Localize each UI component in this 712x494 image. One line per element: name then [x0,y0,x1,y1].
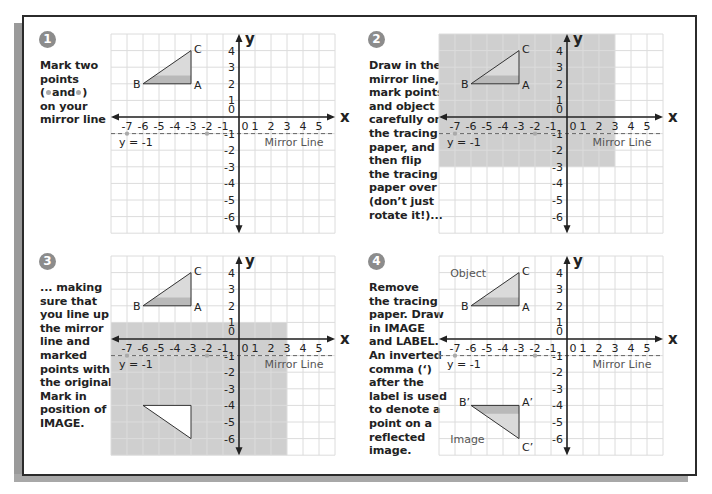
y-tick-label: -2 [552,144,563,157]
x-tick-label: -7 [122,342,133,355]
x-tick-label: 0 [242,120,249,133]
x-tick-label: 4 [628,342,635,355]
x-tick-label: 2 [596,342,603,355]
x-axis-label: x [340,330,350,348]
x-axis-arrow-right-icon [327,336,335,343]
x-tick-label: -2 [530,120,541,133]
vertex-label-c: C [522,43,530,56]
y-tick-label: -1 [224,350,235,363]
mirror-line-label: Mirror Line [593,358,652,371]
x-tick-label: -4 [170,342,181,355]
y-tick-label: 3 [556,283,563,296]
x-tick-label: 4 [300,342,307,355]
x-tick-label: -3 [186,342,197,355]
vertex-label-c-prime: C’ [522,441,533,454]
y-tick-label: 2 [556,300,563,313]
x-tick-label: -4 [498,120,509,133]
mirror-equation-label: y = -1 [119,358,153,371]
y-axis-arrow-down-icon [564,447,571,455]
vertex-label-a: A [522,79,530,92]
y-tick-label: -2 [224,366,235,379]
y-tick-label: 4 [228,45,235,58]
x-tick-label: 3 [284,342,291,355]
y-tick-label: -5 [552,416,563,429]
x-tick-label: 4 [300,120,307,133]
vertex-label-c: C [194,265,202,278]
y-tick-label: -1 [552,128,563,141]
x-tick-label: 1 [252,342,259,355]
x-tick-label: -7 [122,120,133,133]
y-tick-label: 0 [228,103,235,116]
object-triangle-shade [143,76,191,84]
y-tick-label: -5 [224,194,235,207]
x-axis-arrow-right-icon [655,114,663,121]
y-tick-label: -4 [552,177,563,190]
x-tick-label: -6 [138,120,149,133]
x-axis-label: x [668,330,678,348]
x-tick-label: 2 [268,342,275,355]
x-tick-label: -5 [154,342,165,355]
y-tick-label: 2 [228,300,235,313]
x-tick-label: 1 [580,120,587,133]
vertex-label-b-prime: B’ [459,396,470,409]
x-tick-label: -2 [202,120,213,133]
y-tick-label: -6 [224,211,235,224]
y-tick-label: -3 [224,161,235,174]
y-tick-label: -6 [552,211,563,224]
x-axis-label: x [340,108,350,126]
x-tick-label: 5 [644,120,651,133]
mirror-line-label: Mirror Line [265,136,324,149]
y-tick-label: 4 [556,45,563,58]
y-tick-label: -4 [224,177,235,190]
y-tick-label: -6 [552,433,563,446]
y-tick-label: -4 [224,399,235,412]
y-axis-arrow-down-icon [564,225,571,233]
vertex-label-b: B [133,78,141,91]
y-tick-label: -3 [552,161,563,174]
y-axis-arrow-up-icon [236,256,243,264]
vertex-label-b: B [461,300,469,313]
x-tick-label: -5 [482,342,493,355]
y-tick-label: -2 [552,366,563,379]
y-tick-label: 4 [228,267,235,280]
y-tick-label: -1 [552,350,563,363]
vertex-label-b: B [461,78,469,91]
x-tick-label: 3 [612,342,619,355]
x-axis-arrow-left-icon [111,114,119,121]
x-tick-label: -4 [498,342,509,355]
x-tick-label: 2 [596,120,603,133]
y-tick-label: -2 [224,144,235,157]
mirror-line-label: Mirror Line [593,136,652,149]
x-tick-label: -3 [514,342,525,355]
y-axis-arrow-down-icon [236,225,243,233]
y-tick-label: -5 [552,194,563,207]
x-axis-arrow-right-icon [327,114,335,121]
x-tick-label: -7 [450,342,461,355]
object-triangle-shade [143,298,191,306]
y-tick-label: -5 [224,416,235,429]
y-tick-label: 2 [556,78,563,91]
x-tick-label: 0 [242,342,249,355]
y-tick-label: 4 [556,267,563,280]
y-tick-label: -4 [552,399,563,412]
x-axis-arrow-right-icon [655,336,663,343]
y-tick-label: -6 [224,433,235,446]
y-axis-label: y [245,30,255,48]
x-tick-label: -6 [138,342,149,355]
y-tick-label: 0 [556,103,563,116]
y-tick-label: 0 [228,325,235,338]
mirror-equation-label: y = -1 [119,136,153,149]
x-tick-label: 3 [284,120,291,133]
vertex-label-a-prime: A’ [522,396,533,409]
object-triangle-shade [471,298,519,306]
x-tick-label: -4 [170,120,181,133]
x-tick-label: 5 [644,342,651,355]
x-tick-label: -7 [450,120,461,133]
x-tick-label: -2 [202,342,213,355]
y-axis-label: y [573,252,583,270]
graphs-layer: xy-7-6-5-4-3-2-101234543210-1-2-3-4-5-6y… [0,0,712,494]
x-tick-label: -5 [482,120,493,133]
image-triangle-shade [471,405,519,413]
y-axis-arrow-up-icon [236,34,243,42]
x-tick-label: -6 [466,120,477,133]
